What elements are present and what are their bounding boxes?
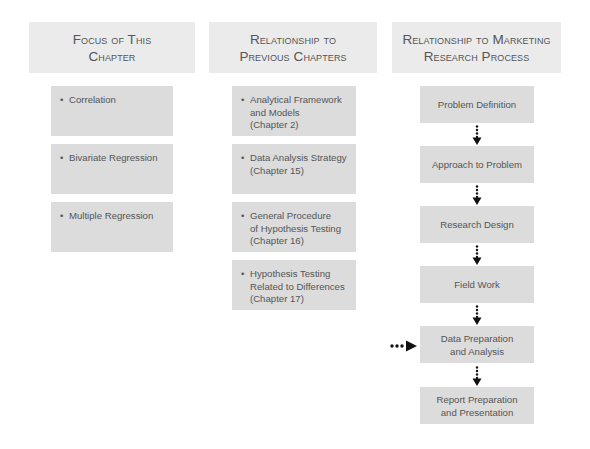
focus-item-correlation: •Correlation [51, 86, 173, 136]
previous-item-hypothesis-testing-procedure: •General Procedure of Hypothesis Testing… [232, 202, 356, 252]
focus-item-multiple-regression: •Multiple Regression [51, 202, 173, 252]
focus-item-label: Bivariate Regression [69, 152, 158, 165]
process-step-report-preparation: Report Preparation and Presentation [420, 387, 534, 424]
focus-item-label: Correlation [69, 94, 116, 107]
previous-item-label: Analytical Framework and Models (Chapter… [250, 94, 342, 132]
dotted-down-arrow-icon [472, 185, 482, 205]
previous-item-analytical-framework: •Analytical Framework and Models (Chapte… [232, 86, 356, 136]
previous-item-label: Hypothesis Testing Related to Difference… [250, 268, 345, 306]
bullet-icon: • [60, 94, 69, 107]
previous-item-data-analysis-strategy: •Data Analysis Strategy (Chapter 15) [232, 144, 356, 194]
bullet-icon: • [60, 152, 69, 165]
header-focus-of-chapter: Focus of This Chapter [29, 22, 195, 73]
dotted-down-arrow-icon [472, 245, 482, 265]
focus-item-label: Multiple Regression [69, 210, 153, 223]
header-relationship-research-process: Relationship to Marketing Research Proce… [392, 22, 561, 73]
bullet-icon: • [241, 268, 250, 306]
previous-item-hypothesis-testing-differences: •Hypothesis Testing Related to Differenc… [232, 260, 356, 310]
dotted-down-arrow-icon [472, 125, 482, 145]
process-step-data-preparation-analysis: Data Preparation and Analysis [420, 326, 534, 363]
header-relationship-previous-chapters: Relationship to Previous Chapters [209, 22, 377, 73]
process-step-approach-to-problem: Approach to Problem [420, 146, 534, 183]
process-step-field-work: Field Work [420, 266, 534, 303]
previous-item-label: General Procedure of Hypothesis Testing … [250, 210, 341, 248]
previous-item-label: Data Analysis Strategy (Chapter 15) [250, 152, 347, 177]
dotted-down-arrow-icon [472, 305, 482, 325]
process-step-research-design: Research Design [420, 206, 534, 243]
bullet-icon: • [241, 94, 250, 132]
bullet-icon: • [241, 152, 250, 177]
dotted-right-arrow-icon [389, 340, 419, 352]
focus-item-bivariate-regression: •Bivariate Regression [51, 144, 173, 194]
bullet-icon: • [241, 210, 250, 248]
bullet-icon: • [60, 210, 69, 223]
dotted-down-arrow-icon [472, 366, 482, 386]
process-step-problem-definition: Problem Definition [420, 86, 534, 123]
